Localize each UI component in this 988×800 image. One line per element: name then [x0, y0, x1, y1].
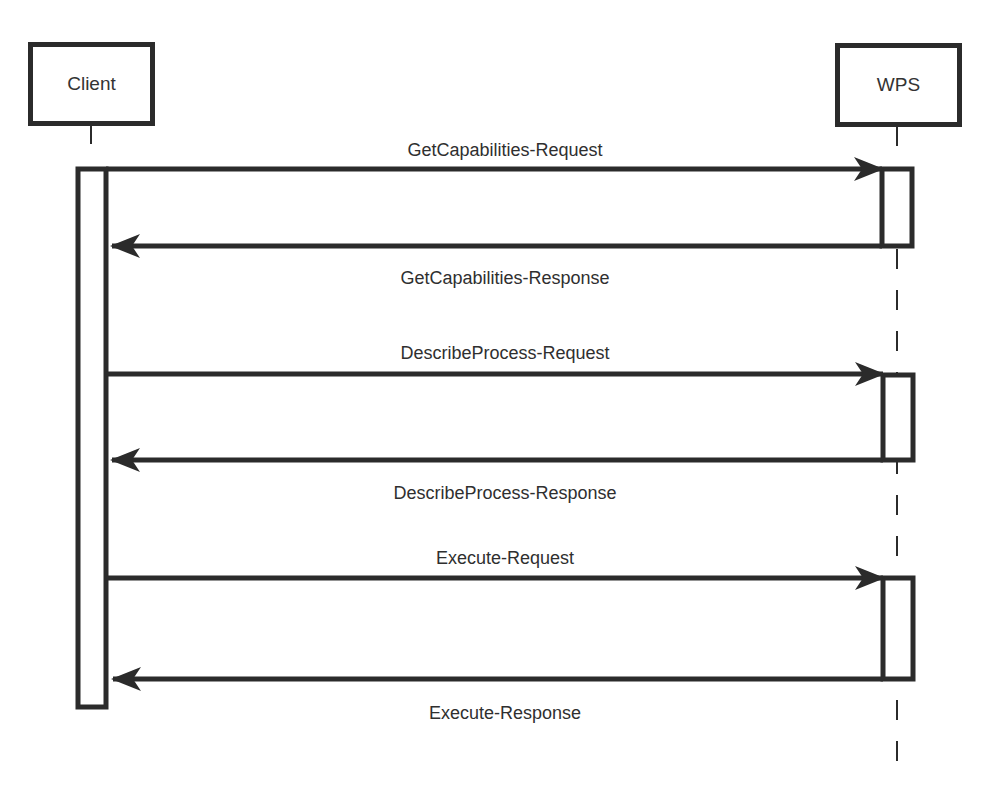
actor-client: Client: [28, 42, 155, 126]
message-label: Execute-Response: [429, 703, 581, 724]
client-activation-bar: [78, 169, 106, 707]
actor-wps: WPS: [835, 43, 962, 127]
message-label: DescribeProcess-Request: [400, 343, 609, 364]
wps-activation-bar-2: [883, 375, 913, 460]
message-label: GetCapabilities-Request: [407, 140, 602, 161]
message-label: Execute-Request: [436, 548, 574, 569]
actor-client-label: Client: [67, 73, 116, 95]
message-label: GetCapabilities-Response: [400, 268, 609, 289]
actor-wps-label: WPS: [877, 74, 920, 96]
wps-activation-bar-3: [883, 578, 913, 679]
wps-activation-bar-1: [882, 169, 912, 246]
message-label: DescribeProcess-Response: [393, 483, 616, 504]
